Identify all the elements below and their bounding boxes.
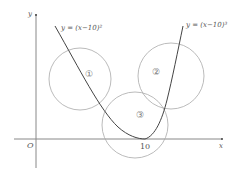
circle-1-label: ① [85,69,93,79]
origin-label: O [27,141,34,150]
cubic-curve [145,26,183,139]
parabola-curve [55,26,145,139]
circle-3-label: ③ [136,110,144,120]
cubic-label: y = (x−10)³ [186,21,227,29]
x-axis-arrow [221,138,223,140]
parabola-label: y = (x−10)² [61,24,102,32]
x-axis-label: x [219,142,223,150]
circle-1 [49,48,111,110]
y-axis-label: y [28,10,32,18]
x-tick-10: 10 [140,142,150,151]
circle-2-label: ② [152,67,160,77]
y-axis-arrow [35,14,37,16]
circle-2 [138,43,204,109]
